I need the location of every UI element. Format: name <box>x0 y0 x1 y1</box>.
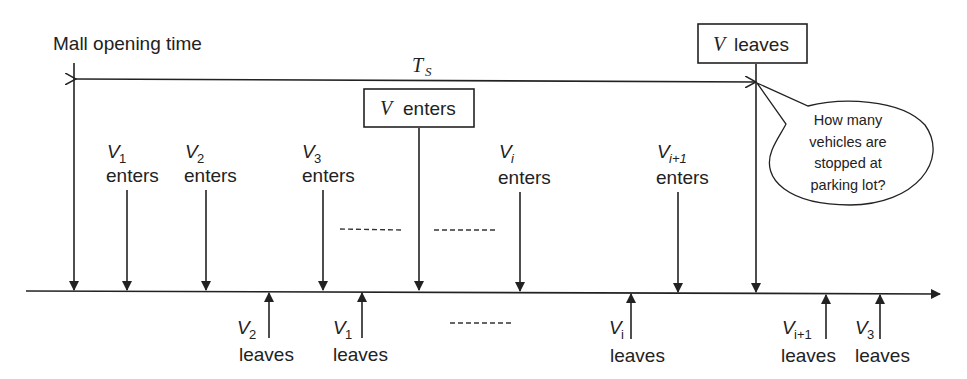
enter-event-v3: V 3 enters <box>302 141 355 290</box>
svg-text:i: i <box>511 151 515 166</box>
enter-event-v2: V 2 enters <box>184 141 237 290</box>
leave-event-v3: V 3 leaves <box>855 295 910 366</box>
svg-text:parking lot?: parking lot? <box>811 177 886 193</box>
svg-text:leaves: leaves <box>781 345 836 366</box>
svg-text:S: S <box>425 64 432 79</box>
svg-text:How many: How many <box>814 112 883 128</box>
svg-text:vehicles are: vehicles are <box>809 134 886 150</box>
svg-text:1: 1 <box>345 327 352 342</box>
leave-event-v2: V 2 leaves <box>237 293 294 365</box>
svg-text:enters: enters <box>656 167 709 188</box>
time-axis <box>26 291 940 294</box>
svg-text:i: i <box>621 327 624 342</box>
ts-label: T S <box>412 54 432 79</box>
svg-text:1: 1 <box>119 151 126 166</box>
svg-text:2: 2 <box>197 151 204 166</box>
svg-text:enters: enters <box>184 165 237 186</box>
svg-text:i+1: i+1 <box>794 327 812 342</box>
svg-text:leaves: leaves <box>610 345 665 366</box>
svg-text:enters: enters <box>498 167 551 188</box>
svg-text:T: T <box>412 54 425 76</box>
enter-event-vi: V i enters <box>498 141 551 291</box>
svg-text:leaves: leaves <box>734 34 789 55</box>
svg-text:i+1: i+1 <box>669 151 687 166</box>
svg-text:leaves: leaves <box>333 344 388 365</box>
svg-text:3: 3 <box>867 327 874 342</box>
svg-text:leaves: leaves <box>855 345 910 366</box>
timeline-diagram: Mall opening time T S V leaves V enters … <box>0 0 967 379</box>
mall-opening-label: Mall opening time <box>53 33 202 54</box>
svg-text:enters: enters <box>106 165 159 186</box>
leave-event-vi-plus-1: V i+1 leaves <box>781 295 836 366</box>
v-leaves-box: V leaves <box>698 24 807 63</box>
svg-text:leaves: leaves <box>239 344 294 365</box>
leave-event-vi: V i leaves <box>609 294 665 366</box>
svg-text:2: 2 <box>249 327 256 342</box>
ts-span-arrow <box>76 79 756 82</box>
svg-text:enters: enters <box>302 165 355 186</box>
question-callout: How many vehicles are stopped at parking… <box>757 83 933 205</box>
enter-event-v1: V 1 enters <box>106 141 159 290</box>
leave-event-v1: V 1 leaves <box>333 293 388 365</box>
ellipsis-dashes <box>340 229 402 230</box>
v-enters-box: V enters <box>364 89 474 127</box>
svg-text:3: 3 <box>314 151 321 166</box>
enter-event-vi-plus-1: V i+1 enters <box>656 141 709 292</box>
svg-text:enters: enters <box>403 98 456 119</box>
svg-text:stopped at: stopped at <box>814 155 882 171</box>
